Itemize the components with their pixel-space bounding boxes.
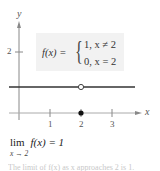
y-axis-label: y xyxy=(17,9,21,19)
x-axis-arrow-icon xyxy=(135,111,142,115)
graph-figure: y x 2 1 2 3 f(x) = { 1, x ≠ 2 0, x = 2 xyxy=(0,0,160,130)
x-tick-label-2: 2 xyxy=(79,120,84,129)
formula-case-2: 0, x = 2 xyxy=(84,57,116,68)
limit-subscript: x → 2 xyxy=(10,150,28,158)
limit-body: f(x) = 1 xyxy=(30,136,64,148)
x-tick-label-1: 1 xyxy=(48,120,53,129)
x-tick-label-3: 3 xyxy=(110,120,115,129)
limit-lim: lim xyxy=(10,136,25,148)
open-circle-point xyxy=(78,84,83,89)
limit-expression: lim f(x) = 1 x → 2 xyxy=(10,137,64,148)
y-tick-label-2: 2 xyxy=(7,47,12,56)
y-axis-arrow-icon xyxy=(17,21,21,28)
formula-case-1: 1, x ≠ 2 xyxy=(84,40,116,51)
caption-partial: The limit of f(x) as x approaches 2 is 1… xyxy=(8,163,134,171)
x-axis-label: x xyxy=(145,107,149,117)
formula-lhs: f(x) = xyxy=(42,48,66,59)
brace-icon: { xyxy=(75,38,83,65)
filled-point xyxy=(78,110,83,115)
